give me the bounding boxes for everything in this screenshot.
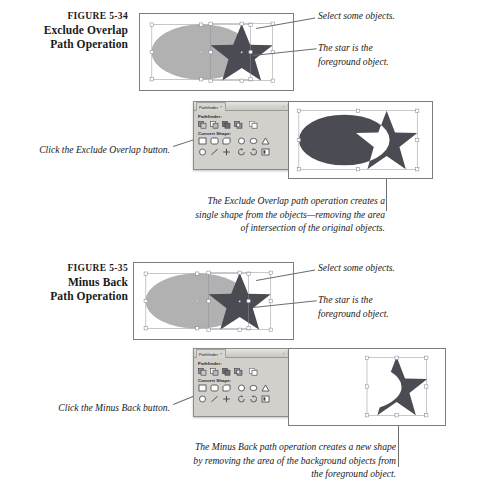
figure-5-34-title-line1: Exclude Overlap [18,23,128,37]
click-instruction-5-34: Click the Exclude Overlap button. [10,143,170,157]
tab-close-icon-2[interactable]: × [220,351,222,358]
figure-5-35-result-panel [288,348,446,426]
ellipse-center-point [200,51,202,53]
ellipse-and-star-artwork-2 [134,263,293,339]
pathfinder-tab-2[interactable]: Pathfinder × [196,349,226,358]
convert-shape-row-1 [197,137,289,146]
pathfinder-tab[interactable]: Pathfinder × [196,102,226,111]
figure-5-35-title-line2: Path Operation [18,289,128,303]
minus-back-result-artwork [289,349,445,425]
convert-shape-row-2 [197,147,289,156]
reverse-path-icon-2[interactable] [260,394,270,403]
convert-shape-row-2-2 [197,394,289,403]
figure-5-34-number: FIGURE 5-34 [18,11,128,23]
pathfinder-section-label-2: Pathfinder: [198,361,289,366]
line-icon[interactable] [209,147,219,156]
leader-line-description-5-34 [386,179,387,211]
beveled-rectangle-icon-2[interactable] [221,384,231,393]
pathfinder-body-2: Pathfinder: Convert Shape: [194,358,292,408]
triangle-icon[interactable] [260,137,270,146]
add-icon-2[interactable] [197,367,207,376]
exclude-overlap-result-artwork [289,102,432,178]
callout-select-objects-5-34: Select some objects. [318,9,468,23]
pathfinder-tab-label: Pathfinder [199,104,218,111]
closed-path-icon[interactable] [248,147,258,156]
convert-shape-section-label-2: Convert Shape: [198,378,289,383]
open-path-icon-2[interactable] [236,394,246,403]
star-center-point [241,51,243,53]
closed-path-icon-2[interactable] [248,394,258,403]
callout-star-line2-2: foreground object. [318,308,389,319]
reverse-path-icon[interactable] [260,147,270,156]
pathfinder-body: Pathfinder: Convert Shape: [194,111,292,161]
beveled-rectangle-icon[interactable] [221,137,231,146]
intersect-icon-2[interactable] [221,367,231,376]
orthogonal-line-icon[interactable] [221,147,231,156]
rectangle-icon[interactable] [197,137,207,146]
exclude-overlap-icon-2[interactable] [233,367,243,376]
figure-5-35-caption: FIGURE 5-35 Minus Back Path Operation [18,263,128,303]
pathfinder-titlebar[interactable]: Pathfinder × – ✕ [194,102,292,111]
star-center-point-2 [239,300,241,302]
open-path-icon[interactable] [236,147,246,156]
figure-5-34-result-panel [288,101,433,179]
description-line3-2: the foreground object. [311,468,396,479]
minus-back-icon-2[interactable] [248,367,258,376]
click-instruction-5-35: Click the Minus Back button. [10,401,170,415]
figure-5-35-number: FIGURE 5-35 [18,263,128,275]
subtract-icon[interactable] [209,120,219,129]
pathfinder-palette-5-35[interactable]: Pathfinder × – ✕ Pathfinder: [193,348,293,417]
minimize-icon-2[interactable]: – [283,350,285,355]
add-icon[interactable] [197,120,207,129]
convert-shape-row-1-2 [197,384,289,393]
description-line1: The Exclude Overlap path operation creat… [207,195,385,206]
callout-star-line2: foreground object. [318,56,389,67]
triangle-icon-2[interactable] [260,384,270,393]
rectangle-icon-2[interactable] [197,384,207,393]
figure-5-34-caption: FIGURE 5-34 Exclude Overlap Path Operati… [18,11,128,51]
pathfinder-tab-label-2: Pathfinder [199,351,218,358]
description-line1-2: The Minus Back path operation creates a … [195,441,396,452]
description-line2-2: by removing the area of the background o… [193,455,396,466]
figure-5-35-selection-panel [133,262,294,340]
polygon-icon-2[interactable] [197,394,207,403]
description-5-34: The Exclude Overlap path operation creat… [150,194,385,235]
pathfinder-section-label: Pathfinder: [198,114,289,119]
exclude-overlap-icon[interactable] [233,120,243,129]
minus-back-icon[interactable] [248,120,258,129]
intersect-icon[interactable] [221,120,231,129]
minimize-icon[interactable]: – [283,103,285,108]
description-line2: single shape from the objects—removing t… [195,209,385,220]
orthogonal-line-icon-2[interactable] [221,394,231,403]
figure-5-35-title-line1: Minus Back [18,275,128,289]
subtract-icon-2[interactable] [209,367,219,376]
figure-page: FIGURE 5-34 Exclude Overlap Path Operati… [0,0,477,488]
tab-close-icon[interactable]: × [220,104,222,111]
callout-star-foreground-5-35: The star is the foreground object. [318,293,468,320]
rounded-rectangle-icon-2[interactable] [209,384,219,393]
convert-shape-section-label: Convert Shape: [198,131,289,136]
callout-star-line1-2: The star is the [318,294,373,305]
ellipse-icon-2[interactable] [248,384,258,393]
description-line3: of intersection of the original objects. [241,222,385,233]
polygon-icon[interactable] [197,147,207,156]
pathfinder-titlebar-2[interactable]: Pathfinder × – ✕ [194,349,292,358]
description-5-35: The Minus Back path operation creates a … [150,440,396,481]
pathfinder-button-row-2 [197,367,289,376]
pathfinder-palette-5-34[interactable]: Pathfinder × – ✕ Pathfinder: [193,101,293,170]
ellipse-icon[interactable] [248,137,258,146]
leader-line-description-5-35 [398,426,399,467]
figure-5-34-title-line2: Path Operation [18,37,128,51]
callout-star-foreground-5-34: The star is the foreground object. [318,41,468,68]
pathfinder-button-row [197,120,289,129]
rounded-rectangle-icon[interactable] [209,137,219,146]
inverse-rounded-rectangle-icon[interactable] [236,137,246,146]
callout-star-line1: The star is the [318,42,373,53]
inverse-rounded-rectangle-icon-2[interactable] [236,384,246,393]
ellipse-center-point-2 [196,300,198,302]
callout-select-objects-5-35: Select some objects. [318,261,468,275]
exclude-overlap-shape [289,102,432,178]
line-icon-2[interactable] [209,394,219,403]
